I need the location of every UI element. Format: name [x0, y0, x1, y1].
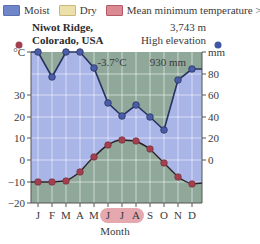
- svg-text:S: S: [147, 209, 153, 221]
- svg-text:−20: −20: [8, 197, 26, 209]
- svg-text:60: 60: [208, 89, 220, 101]
- svg-text:80: 80: [208, 68, 220, 80]
- svg-text:−10: −10: [8, 176, 26, 188]
- svg-text:0: 0: [20, 154, 26, 166]
- x-axis-title: Month: [100, 225, 130, 237]
- svg-text:0: 0: [208, 154, 214, 166]
- climate-diagram: °C 3020 100 −10−20 mm 8060 4020 0 -3.7°C…: [0, 0, 260, 244]
- svg-text:10: 10: [14, 132, 26, 144]
- svg-text:M: M: [61, 209, 71, 221]
- svg-text:20: 20: [208, 132, 220, 144]
- svg-text:F: F: [49, 209, 55, 221]
- svg-text:J: J: [106, 209, 111, 221]
- svg-text:30: 30: [14, 89, 26, 101]
- svg-text:J: J: [120, 209, 125, 221]
- left-axis-labels: °C 3020 100 −10−20: [8, 46, 26, 209]
- svg-text:A: A: [132, 209, 140, 221]
- svg-text:D: D: [188, 209, 196, 221]
- svg-text:A: A: [76, 209, 84, 221]
- annual-precip-annotation: 930 mm: [150, 56, 187, 68]
- svg-text:20: 20: [14, 111, 26, 123]
- precip-axis-marker-icon: [215, 42, 222, 49]
- svg-text:N: N: [174, 209, 182, 221]
- svg-text:J: J: [36, 209, 41, 221]
- right-axis-labels: mm 8060 4020 0: [208, 46, 226, 166]
- svg-text:40: 40: [208, 111, 220, 123]
- mean-temp-annotation: -3.7°C: [97, 56, 126, 68]
- svg-text:O: O: [160, 209, 168, 221]
- temp-axis-marker-icon: [16, 42, 23, 49]
- svg-text:M: M: [89, 209, 99, 221]
